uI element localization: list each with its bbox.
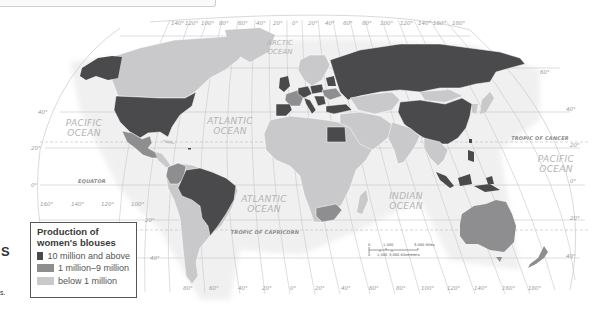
tropic-capricorn-label: TROPIC OF CAPRICORN [231,229,300,235]
svg-text:120°: 120° [101,201,114,207]
legend-label-high: 10 million and above [47,251,130,261]
svg-text:20°: 20° [31,145,41,151]
svg-text:160°: 160° [40,201,53,207]
svg-text:160°: 160° [502,285,515,291]
scale-km-mid: 1,500 [377,253,388,257]
svg-text:80°: 80° [396,285,406,291]
region-poland [310,84,324,94]
legend-item-high: 10 million and above [37,251,130,261]
page-text-fragment-end: s. [0,289,5,296]
svg-text:60°: 60° [343,20,353,26]
svg-text:40°: 40° [566,253,576,259]
svg-text:20°: 20° [308,20,318,26]
scale-bar: 0 1,500 3,000 Miles 0 1,500 3,000 Kilome… [368,243,435,257]
pacific-west-label-2: OCEAN [67,128,100,138]
svg-text:60°: 60° [540,69,550,75]
svg-text:40°: 40° [566,106,576,112]
svg-text:60°: 60° [209,285,219,291]
svg-text:80°: 80° [183,285,193,291]
scale-miles-mid: 1,500 [383,243,394,247]
svg-text:80°: 80° [219,20,229,26]
svg-text:100°: 100° [131,201,144,207]
svg-text:20°: 20° [273,20,283,26]
svg-text:80°: 80° [362,20,372,26]
region-philippines [468,150,474,162]
svg-text:120°: 120° [400,20,413,26]
region-egypt [327,127,346,142]
svg-text:160°: 160° [433,20,446,26]
svg-text:40°: 40° [38,109,48,115]
map-legend: Production of women's blouses 10 million… [30,222,137,298]
atlantic-north-label-2: OCEAN [213,126,246,136]
pacific-east-label-1: PACIFIC [538,154,575,164]
svg-text:20°: 20° [262,285,272,291]
atlantic-north-label-1: ATLANTIC [206,116,253,126]
svg-text:40°: 40° [238,285,248,291]
atlantic-south-label-1: ATLANTIC [240,194,287,204]
legend-title-line1: Production of [37,227,130,238]
svg-text:100°: 100° [380,20,393,26]
scale-km-0: 0 [368,253,371,257]
legend-item-low: below 1 million [37,276,130,286]
scale-miles-max: 3,000 Miles [414,243,435,247]
svg-text:0°: 0° [292,20,298,26]
svg-text:20°: 20° [570,215,580,221]
indian-ocean-label-1: INDIAN [389,191,423,201]
legend-label-mid: 1 million–9 million [58,263,129,273]
page-text-fragment-heading: S [1,244,10,259]
svg-text:0°: 0° [31,182,37,188]
scale-miles-0: 0 [368,243,371,247]
svg-text:60°: 60° [369,285,379,291]
arctic-ocean-label-2: OCEAN [268,48,294,56]
equator-label: EQUATOR [78,178,106,184]
pacific-west-label-1: PACIFIC [66,118,103,128]
arctic-ocean-label-1: ARCTIC [266,39,293,47]
legend-title-line2: women's blouses [37,238,130,249]
svg-text:140°: 140° [71,201,84,207]
svg-text:40°: 40° [341,285,351,291]
legend-item-mid: 1 million–9 million [37,263,130,273]
svg-text:100°: 100° [201,20,214,26]
svg-text:120°: 120° [185,20,198,26]
svg-text:140°: 140° [474,285,487,291]
svg-text:40°: 40° [150,255,160,261]
indian-ocean-label-2: OCEAN [389,201,422,211]
svg-text:40°: 40° [325,20,335,26]
tropic-cancer-label: TROPIC OF CANCER [511,135,569,141]
legend-swatch-mid [37,264,54,272]
atlantic-south-label-2: OCEAN [247,204,280,214]
svg-text:40°: 40° [256,20,266,26]
svg-text:0°: 0° [570,178,576,184]
legend-label-low: below 1 million [58,276,117,286]
svg-text:180°: 180° [528,285,541,291]
svg-text:100°: 100° [421,285,434,291]
region-taiwan [469,139,472,143]
svg-text:120°: 120° [447,285,460,291]
region-alaska [80,56,122,80]
svg-text:0°: 0° [290,285,296,291]
svg-text:20°: 20° [570,142,580,148]
svg-text:60°: 60° [238,20,248,26]
region-caribbean-island [188,148,191,150]
svg-text:180°: 180° [452,20,465,26]
svg-text:140°: 140° [418,20,431,26]
svg-text:20°: 20° [315,285,325,291]
legend-swatch-high [37,252,43,260]
scale-km-max: 3,000 Kilometers [389,253,420,257]
pacific-east-label-2: OCEAN [539,164,572,174]
svg-text:140°: 140° [171,20,184,26]
svg-text:20°: 20° [145,217,155,223]
legend-swatch-low [37,277,54,285]
